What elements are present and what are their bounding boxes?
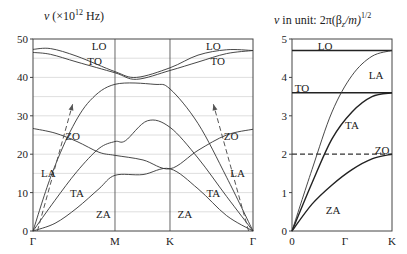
branch-label-lo: LO	[206, 40, 221, 52]
branch-label-lo: LO	[318, 40, 333, 52]
x-tick-label: Γ	[342, 235, 348, 247]
arrowhead-icon	[213, 104, 218, 110]
branch-label-zo: ZO	[65, 130, 80, 142]
x-tick-label: M	[110, 235, 120, 247]
branch-label-ta: TA	[207, 187, 221, 199]
branch-label-la: LA	[41, 167, 56, 179]
x-tick-label: K	[388, 235, 396, 247]
left-chart-title: ν (×1012 Hz)	[44, 8, 104, 23]
y-tick-label: 0	[282, 225, 288, 237]
phonon-dispersion-figure: 01020304050ΓMKΓLOTOLOTOZOZOLALATATAZAZAν…	[0, 0, 407, 254]
branch-label-la: LA	[369, 69, 384, 81]
branch-label-za: ZA	[177, 208, 192, 220]
branch-label-ta: TA	[345, 119, 359, 131]
branch-label-zo: ZO	[224, 130, 239, 142]
series-za-curve	[292, 154, 392, 231]
y-tick-label: 50	[17, 33, 29, 45]
y-tick-label: 20	[17, 148, 29, 160]
x-tick-label: Γ	[30, 235, 36, 247]
series-za-curve	[33, 168, 253, 231]
y-tick-label: 30	[17, 110, 29, 122]
branch-label-za: ZA	[326, 204, 341, 216]
arrowhead-icon	[69, 104, 74, 110]
y-tick-label: 5	[282, 33, 288, 45]
y-tick-label: 4	[282, 71, 288, 83]
left-panel-dispersion-chart: 01020304050ΓMKΓLOTOLOTOZOZOLALATATAZAZAν…	[17, 8, 256, 247]
branch-label-la: LA	[230, 167, 245, 179]
branch-label-lo: LO	[92, 40, 107, 52]
branch-label-zo: ZO	[375, 144, 390, 156]
y-tick-label: 0	[23, 225, 29, 237]
series-la-curve	[33, 83, 253, 231]
branch-label-to: TO	[295, 82, 310, 94]
branch-label-to: TO	[87, 55, 102, 67]
y-tick-label: 10	[17, 187, 29, 199]
y-tick-label: 1	[282, 187, 288, 199]
y-tick-label: 3	[282, 110, 288, 122]
y-tick-label: 2	[282, 148, 288, 160]
x-tick-label: 0	[289, 235, 295, 247]
branch-label-to: TO	[211, 55, 226, 67]
x-tick-label: K	[166, 235, 174, 247]
branch-label-za: ZA	[96, 208, 111, 220]
branch-label-ta: TA	[70, 187, 84, 199]
x-tick-label: Γ	[250, 235, 256, 247]
right-panel-model-chart: 0123450ΓKLOTOLATAZOZAν in unit: 2π(βz/m)…	[274, 11, 396, 247]
y-tick-label: 40	[17, 71, 29, 83]
right-chart-title: ν in unit: 2π(βz/m)1/2	[274, 11, 371, 29]
plot-frame	[292, 39, 392, 231]
